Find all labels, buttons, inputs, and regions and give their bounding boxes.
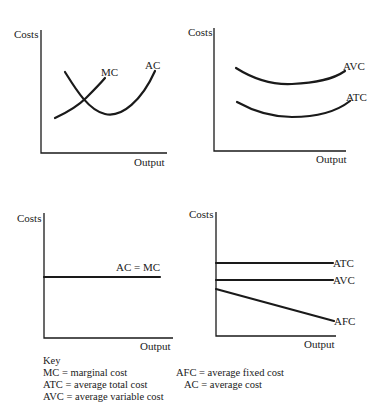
atc-label: ATC: [346, 91, 367, 103]
axes: [44, 213, 173, 338]
x-axis-label: Output: [140, 340, 171, 352]
avc-curve: [236, 68, 345, 84]
x-axis-label: Output: [316, 153, 347, 165]
key-item-mc: MC = marginal cost: [43, 367, 164, 379]
atc-label: ATC: [333, 257, 354, 269]
key-legend-right: AFC = average fixed cost AC = average co…: [176, 367, 284, 391]
ac-mc-label: AC = MC: [116, 261, 160, 273]
y-axis-label: Costs: [188, 26, 212, 38]
key-legend: Key MC = marginal cost ATC = average tot…: [43, 355, 164, 403]
key-item-avc: AVC = average variable cost: [43, 391, 164, 403]
ac-label: AC: [145, 59, 160, 71]
x-axis-label: Output: [134, 156, 165, 168]
afc-line: [216, 289, 334, 321]
key-item-atc: ATC = average total cost: [43, 379, 164, 391]
panel-avc-atc: Costs Output AVC ATC: [188, 26, 367, 165]
panel-ac-equals-mc: Costs Output AC = MC: [17, 212, 173, 352]
key-item-ac: AC = average cost: [176, 379, 284, 391]
afc-label: AFC: [334, 315, 355, 327]
key-title: Key: [43, 355, 164, 367]
panel-mc-ac: Costs Output MC AC: [14, 28, 167, 168]
mc-label: MC: [101, 66, 118, 78]
y-axis-label: Costs: [189, 208, 213, 220]
axes: [41, 30, 167, 153]
y-axis-label: Costs: [14, 28, 38, 40]
x-axis-label: Output: [304, 338, 335, 350]
avc-label: AVC: [343, 60, 365, 72]
panel-atc-avc-afc: Costs Output ATC AVC AFC: [189, 208, 355, 350]
atc-curve: [237, 101, 350, 117]
avc-label: AVC: [333, 274, 355, 286]
key-item-afc: AFC = average fixed cost: [176, 367, 284, 379]
y-axis-label: Costs: [17, 212, 41, 224]
axes: [214, 28, 346, 151]
